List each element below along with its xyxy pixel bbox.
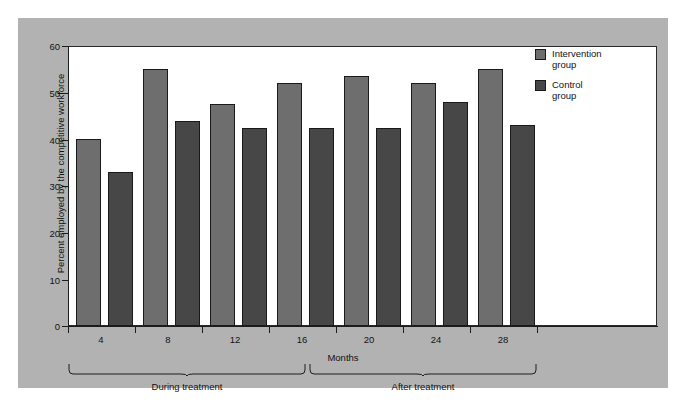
y-tick-label-0: 0: [26, 322, 60, 332]
x-axis-title: Months: [18, 352, 668, 363]
brace-during-treatment-icon: [68, 363, 306, 377]
bar-control-16: [309, 128, 334, 326]
bar-intervention-20: [344, 76, 369, 326]
x-tick-label-20: 20: [349, 335, 389, 345]
x-tick-12: [269, 327, 270, 333]
chart-legend: Intervention group Control group: [535, 48, 602, 110]
bar-intervention-28: [478, 69, 503, 326]
bar-control-28: [510, 125, 535, 326]
brace-label-after-treatment: After treatment: [323, 381, 523, 392]
x-tick-label-8: 8: [148, 335, 188, 345]
y-axis-title: Percent employed by the competitive work…: [55, 49, 66, 299]
brace-after-treatment: After treatment: [309, 363, 537, 377]
x-axis-line: [68, 326, 658, 327]
legend-label-control: Control group: [552, 79, 583, 101]
bar-intervention-8: [143, 69, 168, 326]
bar-intervention-24: [411, 83, 436, 326]
x-tick-label-24: 24: [416, 335, 456, 345]
bar-control-8: [175, 121, 200, 326]
x-tick-label-4: 4: [81, 335, 121, 345]
x-tick-20: [403, 327, 404, 333]
y-tick-60: [62, 46, 69, 47]
bar-intervention-12: [210, 104, 235, 326]
brace-label-during-treatment: During treatment: [87, 381, 287, 392]
bar-control-12: [242, 128, 267, 326]
bar-control-20: [376, 128, 401, 326]
chart-figure-panel: 60 50 40 30 20 10 0 Percent employed by …: [18, 18, 668, 388]
legend-item-control: Control group: [535, 79, 602, 101]
legend-swatch-intervention: [535, 49, 546, 60]
x-tick-label-12: 12: [215, 335, 255, 345]
x-tick-8: [202, 327, 203, 333]
x-tick-label-28: 28: [483, 335, 523, 345]
x-tick-16: [336, 327, 337, 333]
brace-during-treatment: During treatment: [68, 363, 306, 377]
brace-after-treatment-icon: [309, 363, 537, 377]
x-tick-24: [470, 327, 471, 333]
x-tick-4: [135, 327, 136, 333]
legend-item-intervention: Intervention group: [535, 48, 602, 70]
x-tick-28: [537, 327, 538, 333]
bar-control-24: [443, 102, 468, 326]
x-tick-start: [68, 327, 69, 333]
bar-intervention-16: [277, 83, 302, 326]
bar-control-4: [108, 172, 133, 326]
legend-swatch-control: [535, 80, 546, 91]
bar-intervention-4: [76, 139, 101, 326]
x-tick-label-16: 16: [282, 335, 322, 345]
legend-label-intervention: Intervention group: [552, 48, 602, 70]
